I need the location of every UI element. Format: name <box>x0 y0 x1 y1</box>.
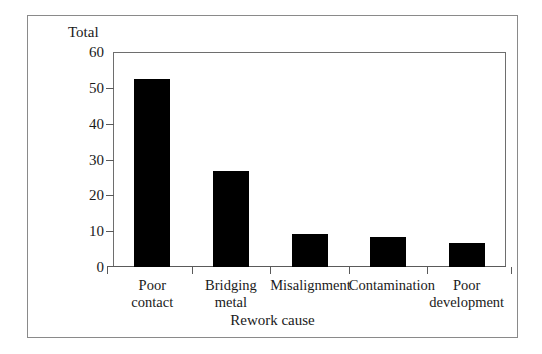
x-category-label: Misalignment <box>270 277 349 294</box>
x-tick-mark <box>349 267 350 274</box>
y-tick-mark <box>106 195 114 196</box>
x-category-label-line: Misalignment <box>270 277 349 294</box>
x-category-label-line: Contamination <box>349 277 428 294</box>
y-tick-label: 10 <box>89 224 104 239</box>
bar-misalignment <box>292 234 328 267</box>
x-tick-mark <box>427 267 428 274</box>
x-category-label-line: metal <box>192 294 271 311</box>
bar-bridging-metal <box>213 171 249 267</box>
x-axis-title: Rework cause <box>28 312 517 329</box>
x-category-label-line: contact <box>113 294 192 311</box>
bar-poor-contact <box>134 79 170 267</box>
x-category-label: Poorcontact <box>113 277 192 311</box>
y-tick-mark <box>106 124 114 125</box>
x-end-tick-mark-right <box>511 267 512 274</box>
x-category-label: Poordevelopment <box>427 277 506 311</box>
y-axis-title: Total <box>68 25 99 40</box>
x-category-label-line: Bridging <box>192 277 271 294</box>
y-tick-label: 60 <box>89 45 104 60</box>
x-category-label: Contamination <box>349 277 428 294</box>
x-category-label-line: development <box>427 294 506 311</box>
y-tick-mark <box>106 231 114 232</box>
y-tick-label: 20 <box>89 188 104 203</box>
y-tick-label: 30 <box>89 152 104 167</box>
x-category-label-line: Poor <box>427 277 506 294</box>
y-tick-label: 50 <box>89 80 104 95</box>
x-end-tick-mark-left <box>107 267 108 274</box>
x-category-label-line: Poor <box>113 277 192 294</box>
x-tick-mark <box>270 267 271 274</box>
y-tick-label: 0 <box>97 260 105 275</box>
bar-poor-development <box>449 243 485 267</box>
y-tick-mark <box>106 88 114 89</box>
figure-border: Total 0102030405060 PoorcontactBridgingm… <box>27 15 518 338</box>
y-tick-mark <box>106 160 114 161</box>
y-tick-label: 40 <box>89 116 104 131</box>
plot-area: 0102030405060 PoorcontactBridgingmetalMi… <box>113 52 506 267</box>
x-category-label: Bridgingmetal <box>192 277 271 311</box>
bar-contamination <box>370 237 406 267</box>
x-tick-mark <box>192 267 193 274</box>
